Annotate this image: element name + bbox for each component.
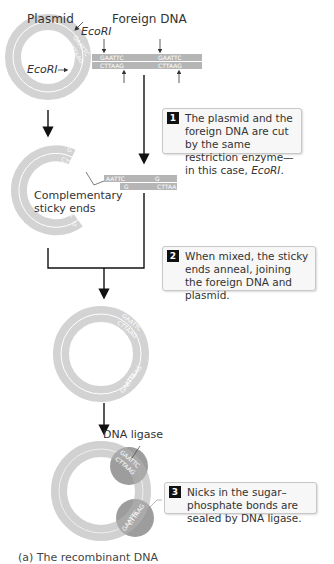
step-1-enzyme: EcoRI	[251, 164, 280, 176]
step-3-text: Nicks in the sugar–phosphate bonds are s…	[187, 486, 302, 524]
ecori-label-left: EcoRI	[27, 63, 58, 76]
svg-text:G: G	[67, 146, 72, 153]
svg-text:CTTAA: CTTAA	[157, 183, 177, 190]
step-number-badge: 3	[169, 486, 181, 498]
svg-text:GAATTC: GAATTC	[158, 54, 182, 61]
step-1-callout: 1 The plasmid and the foreign DNA are cu…	[162, 108, 302, 154]
step-number-badge: 1	[167, 112, 179, 124]
sticky-ends-label: Complementary sticky ends	[34, 189, 122, 215]
svg-text:G: G	[72, 220, 77, 227]
figure-caption: (a) The recombinant DNA	[18, 551, 158, 564]
sticky-ends-label-line1: Complementary	[34, 189, 122, 202]
plasmid-recombinant: GAATTC CTTAAG CTTAAG GAATTC	[61, 312, 143, 394]
svg-text:CTTAAG: CTTAAG	[100, 62, 124, 69]
foreign-dna-label: Foreign DNA	[112, 12, 187, 26]
foreign-dna-fragment: AATTC G G CTTAA	[104, 175, 177, 190]
sticky-ends-pointer	[86, 172, 104, 185]
svg-text:AATTC: AATTC	[106, 175, 125, 182]
step-number-badge: 2	[167, 250, 179, 262]
plasmid-label: Plasmid	[27, 12, 74, 26]
step-1-period: .	[280, 164, 283, 176]
plasmid-ligated: GAATTC CTTAAG CTTAAG GAATTC	[59, 447, 154, 537]
foreign-dna: GAATTC CTTAAG GAATTC CTTAAG	[92, 54, 202, 69]
step-3-callout: 3 Nicks in the sugar–phosphate bonds are…	[164, 482, 317, 514]
plasmid-intact: GAATTC CTTAAG	[13, 22, 91, 92]
svg-text:G: G	[124, 183, 129, 190]
svg-text:G: G	[155, 175, 160, 182]
step-2-callout: 2 When mixed, the sticky ends anneal, jo…	[162, 246, 316, 291]
dna-ligase-label: DNA ligase	[103, 428, 163, 441]
sticky-ends-label-line2: sticky ends	[34, 202, 122, 215]
ecori-label-top: EcoRI	[81, 25, 112, 38]
svg-text:GAATTC: GAATTC	[100, 54, 124, 61]
svg-text:CTTAAG: CTTAAG	[158, 62, 182, 69]
plasmid-cut: G CTTAA AATTC G	[19, 146, 85, 227]
